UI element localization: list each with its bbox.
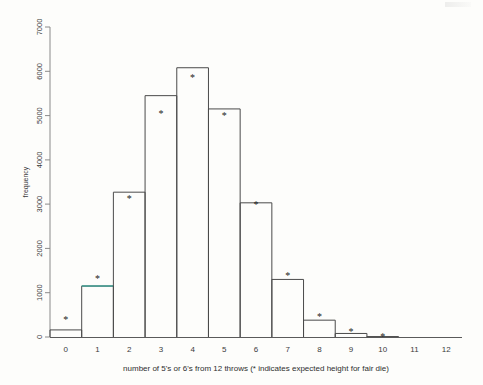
scan-artifact [445, 2, 471, 7]
x-tick-label: 8 [317, 345, 322, 354]
x-tick-label: 0 [64, 345, 69, 354]
x-tick-label: 5 [222, 345, 227, 354]
chart-canvas: 0 1000 2000 3000 4000 5000 6000 7000 fre… [0, 0, 483, 385]
expected-height-star: * [349, 326, 354, 337]
y-tick-label: 7000 [35, 19, 44, 36]
expected-height-star: * [158, 108, 163, 119]
x-axis-title: number of 5's or 6's from 12 throws (* i… [123, 364, 389, 373]
x-tick-label: 3 [159, 345, 164, 354]
expected-height-star: * [190, 72, 195, 83]
y-tick-label: 3000 [35, 196, 44, 213]
y-tick-label: 1000 [35, 284, 44, 301]
histogram-bar [272, 279, 304, 337]
expected-value-markers: *********** [63, 72, 385, 342]
y-tick-label: 6000 [35, 63, 44, 80]
y-axis-title: frequency [22, 166, 30, 197]
x-tick-label: 9 [349, 345, 354, 354]
expected-height-star: * [63, 314, 68, 325]
y-tick-label: 4000 [35, 152, 44, 169]
y-tick-label: 5000 [35, 107, 44, 124]
x-tick-label: 1 [95, 345, 100, 354]
histogram-bar [145, 96, 177, 337]
expected-height-star: * [254, 199, 259, 210]
x-tick-label: 4 [190, 345, 195, 354]
histogram-bar [82, 286, 114, 337]
expected-height-star: * [222, 110, 227, 121]
bar-series [50, 68, 399, 337]
histogram-bar [113, 192, 145, 337]
x-tick-label: 2 [127, 345, 132, 354]
y-axis-ticks [45, 27, 50, 337]
y-tick-label: 0 [35, 335, 44, 339]
y-tick-label: 2000 [35, 240, 44, 257]
histogram-bar [304, 320, 336, 337]
histogram-chart: 0 1000 2000 3000 4000 5000 6000 7000 fre… [0, 0, 483, 385]
expected-height-star: * [127, 193, 132, 204]
histogram-bar [50, 330, 82, 337]
x-tick-label: 11 [410, 345, 419, 354]
x-tick-label: 10 [378, 345, 387, 354]
histogram-bar [208, 109, 240, 337]
histogram-bar [177, 68, 209, 337]
x-tick-label: 7 [285, 345, 290, 354]
x-tick-label: 12 [442, 345, 451, 354]
histogram-bar [240, 203, 272, 337]
x-tick-label: 6 [254, 345, 259, 354]
expected-height-star: * [380, 331, 385, 342]
x-axis-tick-labels: 0123456789101112 [64, 345, 452, 354]
y-axis-tick-labels: 0 1000 2000 3000 4000 5000 6000 7000 [35, 19, 44, 339]
expected-height-star: * [317, 311, 322, 322]
expected-height-star: * [95, 273, 100, 284]
expected-height-star: * [285, 270, 290, 281]
